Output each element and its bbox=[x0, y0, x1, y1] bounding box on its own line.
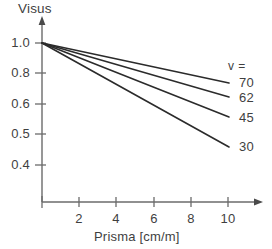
series-line-45 bbox=[42, 43, 229, 117]
x-tick-label-5: 10 bbox=[218, 212, 238, 225]
legend-entry-30: 30 bbox=[239, 140, 254, 153]
x-tick-label-2: 4 bbox=[106, 212, 126, 225]
y-tick-label-2: 0.8 bbox=[2, 66, 30, 79]
visus-prisma-chart: Visus Prisma [cm/m] 1.0 0.8 0.6 0.5 0.4 … bbox=[0, 0, 272, 249]
data-series-lines bbox=[42, 43, 229, 147]
x-axis bbox=[42, 199, 263, 206]
x-tick-label-3: 6 bbox=[144, 212, 164, 225]
legend-entry-45: 45 bbox=[239, 111, 254, 124]
series-line-62 bbox=[42, 43, 229, 97]
x-axis-title: Prisma [cm/m] bbox=[94, 230, 180, 243]
series-line-70 bbox=[42, 43, 229, 83]
legend-entry-62: 62 bbox=[239, 91, 254, 104]
y-tick-label-5: 0.4 bbox=[2, 158, 30, 171]
y-axis-ticks bbox=[35, 43, 46, 165]
x-tick-label-4: 8 bbox=[181, 212, 201, 225]
y-tick-label-3: 0.6 bbox=[2, 97, 30, 110]
legend-title: v = bbox=[228, 60, 246, 72]
y-tick-label-1: 1.0 bbox=[2, 36, 30, 49]
legend-entry-70: 70 bbox=[239, 76, 254, 89]
y-tick-label-4: 0.5 bbox=[2, 127, 30, 140]
x-tick-label-1: 2 bbox=[69, 212, 89, 225]
series-line-30 bbox=[42, 43, 229, 147]
y-axis-title: Visus bbox=[18, 2, 52, 16]
